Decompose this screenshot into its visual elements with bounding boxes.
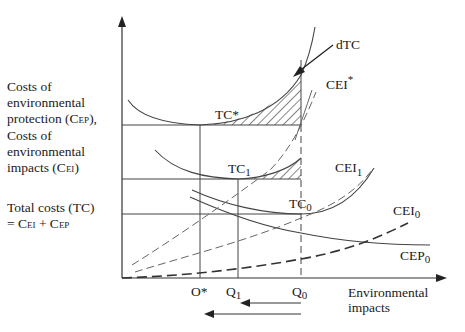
tc0-label: TC0 bbox=[289, 196, 312, 213]
cep0-label: CEP0 bbox=[400, 248, 431, 265]
arrow-left-icon bbox=[240, 299, 250, 307]
cei0-label: CEI0 bbox=[393, 203, 421, 220]
x-axis-label-2: impacts bbox=[348, 300, 390, 315]
cei0-curve bbox=[122, 223, 408, 278]
q1-tick: Q1 bbox=[226, 284, 241, 301]
o-star-tick: O* bbox=[191, 284, 208, 299]
cei1-label: CEI1 bbox=[335, 160, 362, 178]
cost-diagram: TC* TC1 TC0 dTC CEI* CEI1 CEI0 CEP0 O* Q… bbox=[0, 0, 465, 332]
tc1-label: TC1 bbox=[228, 161, 251, 178]
arrow-left-icon bbox=[204, 310, 214, 318]
x-axis-arrow-icon bbox=[436, 274, 447, 282]
tc-star-label: TC* bbox=[215, 107, 239, 122]
q0-tick: Q0 bbox=[292, 284, 308, 301]
x-axis-label: Environmental bbox=[348, 285, 428, 300]
dtc-arrow bbox=[298, 45, 333, 72]
cei-star-label: CEI* bbox=[326, 73, 353, 92]
dtc-label: dTC bbox=[336, 37, 360, 52]
y-axis-arrow-icon bbox=[118, 16, 126, 27]
